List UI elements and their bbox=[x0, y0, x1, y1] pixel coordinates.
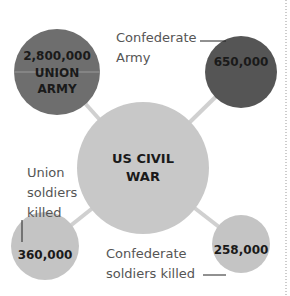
union-killed-circle bbox=[11, 212, 79, 280]
union-killed-caption1: Union bbox=[27, 165, 65, 180]
confederate-army-caption1: Confederate bbox=[116, 30, 197, 45]
confederate-army-caption2: Army bbox=[116, 50, 151, 65]
union-killed-caption3: killed bbox=[27, 205, 62, 220]
center-circle bbox=[77, 102, 209, 234]
union-killed-caption2: soldiers bbox=[27, 185, 78, 200]
center-title-line2: WAR bbox=[126, 169, 160, 184]
confederate-killed-caption2: soldiers killed bbox=[106, 266, 195, 281]
confederate-army-circle bbox=[205, 36, 277, 108]
union-army-label2: ARMY bbox=[37, 82, 76, 96]
union-army-value: 2,800,000 bbox=[23, 49, 91, 63]
center-title-line1: US CIVIL bbox=[112, 151, 174, 166]
confederate-army-value: 650,000 bbox=[214, 55, 269, 69]
confederate-killed-value: 258,000 bbox=[214, 243, 269, 257]
civil-war-diagram: US CIVIL WAR 2,800,000 UNION ARMY 650,00… bbox=[0, 0, 290, 296]
confederate-killed-caption1: Confederate bbox=[106, 246, 187, 261]
union-army-label1: UNION bbox=[35, 66, 80, 80]
union-killed-value: 360,000 bbox=[18, 248, 73, 262]
